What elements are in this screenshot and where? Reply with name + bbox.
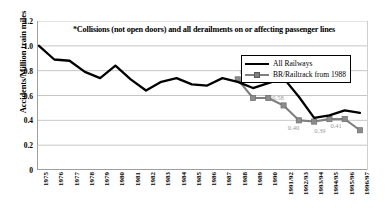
y-tick-label: 0.6 <box>11 91 33 100</box>
x-tick-label: 1989 <box>256 172 264 224</box>
plot-svg <box>37 21 368 170</box>
legend-label-br-railtrack: BR/Railtrack from 1988 <box>273 70 346 80</box>
y-tick-label: 0.2 <box>11 141 33 150</box>
x-tick-label: 1976 <box>57 172 65 224</box>
data-point-marker <box>266 95 271 100</box>
x-tick-label: 1994/95 <box>332 172 340 224</box>
x-tick-label: 1986 <box>210 172 218 224</box>
data-point-marker <box>281 103 286 108</box>
legend-item-all-railways: All Railways <box>245 58 346 69</box>
y-tick-label: 1.0 <box>11 41 33 50</box>
x-axis-tick-labels: 1975197619771978197919801981198219831984… <box>37 172 368 224</box>
y-tick-label: 0 <box>11 166 33 175</box>
x-tick-label: 1992/93 <box>302 172 310 224</box>
x-tick-label: 1979 <box>103 172 111 224</box>
x-tick-label: 1993/94 <box>317 172 325 224</box>
data-point-label: 0.58 <box>272 94 283 101</box>
x-tick-label: 1982 <box>149 172 157 224</box>
x-tick-label: 1975 <box>42 172 50 224</box>
legend-swatch-line-marker-icon <box>245 70 269 80</box>
y-axis-tick-labels: 00.20.40.60.81.01.2 <box>8 0 33 224</box>
x-tick-label: 1978 <box>88 172 96 224</box>
data-point-label: 0.40 <box>288 124 299 131</box>
y-tick-label: 0.4 <box>11 116 33 125</box>
y-tick-label: 1.2 <box>11 17 33 26</box>
data-point-marker <box>250 95 255 100</box>
x-tick-label: 1987 <box>225 172 233 224</box>
accidents-line-chart: Accidents/Million train miles 00.20.40.6… <box>0 0 386 224</box>
plot-area: 0.730.580.400.390.41 <box>37 21 368 170</box>
chart-title: *Collisions (not open doors) and all der… <box>44 25 364 34</box>
x-tick-label: 1985 <box>195 172 203 224</box>
x-tick-label: 1981 <box>134 172 142 224</box>
x-tick-label: 1988 <box>241 172 249 224</box>
x-tick-label: 1995/96 <box>348 172 356 224</box>
data-point-label: 0.41 <box>330 122 341 129</box>
data-point-label: 0.39 <box>314 127 325 134</box>
x-tick-label: 1977 <box>73 172 81 224</box>
legend-label-all-railways: All Railways <box>273 59 312 69</box>
data-point-marker <box>327 116 332 121</box>
data-point-marker <box>296 118 301 123</box>
legend-swatch-line-icon <box>245 59 269 69</box>
legend-item-br-railtrack: BR/Railtrack from 1988 <box>245 69 346 80</box>
x-tick-label: 1990 <box>271 172 279 224</box>
data-point-marker <box>342 116 347 121</box>
x-tick-label: 1983 <box>164 172 172 224</box>
x-tick-label: 1980 <box>118 172 126 224</box>
chart-legend: All Railways BR/Railtrack from 1988 <box>241 55 351 83</box>
y-tick-label: 0.8 <box>11 66 33 75</box>
data-point-marker <box>312 119 317 124</box>
x-tick-label: 1984 <box>180 172 188 224</box>
x-tick-label: 1991/92 <box>287 172 295 224</box>
x-tick-label: 1996/97 <box>363 172 371 224</box>
data-point-marker <box>357 128 362 133</box>
